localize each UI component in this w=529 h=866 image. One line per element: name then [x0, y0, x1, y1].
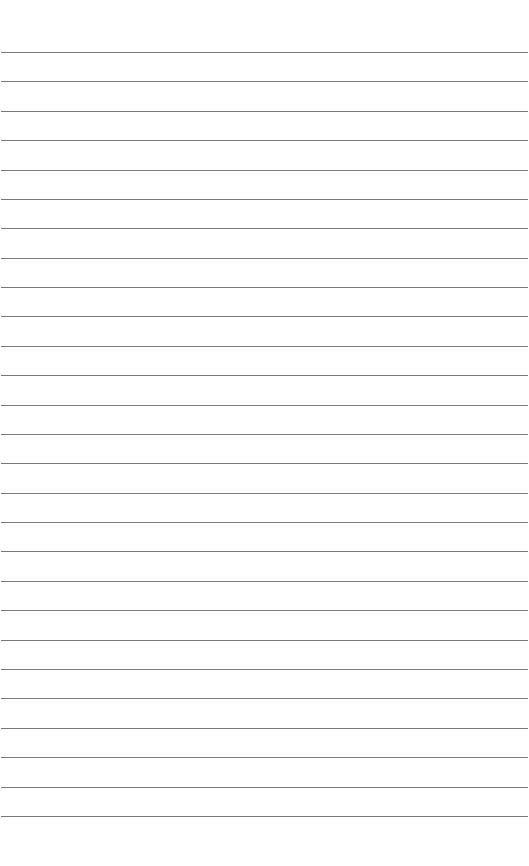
ruled-line	[1, 375, 528, 376]
ruled-line	[1, 287, 528, 288]
ruled-line	[1, 522, 528, 523]
ruled-line	[1, 170, 528, 171]
ruled-line	[1, 816, 528, 817]
ruled-line	[1, 581, 528, 582]
ruled-line	[1, 405, 528, 406]
ruled-line	[1, 316, 528, 317]
ruled-line	[1, 81, 528, 82]
ruled-line	[1, 551, 528, 552]
ruled-line	[1, 111, 528, 112]
ruled-line	[1, 728, 528, 729]
ruled-line	[1, 463, 528, 464]
ruled-line	[1, 346, 528, 347]
ruled-line	[1, 493, 528, 494]
ruled-line	[1, 52, 528, 53]
ruled-line	[1, 610, 528, 611]
ruled-line	[1, 640, 528, 641]
ruled-line	[1, 228, 528, 229]
ruled-line	[1, 757, 528, 758]
ruled-line	[1, 787, 528, 788]
ruled-line	[1, 669, 528, 670]
ruled-line	[1, 698, 528, 699]
ruled-line	[1, 199, 528, 200]
lined-paper-page	[0, 0, 529, 866]
ruled-line	[1, 140, 528, 141]
ruled-line	[1, 434, 528, 435]
ruled-line	[1, 258, 528, 259]
